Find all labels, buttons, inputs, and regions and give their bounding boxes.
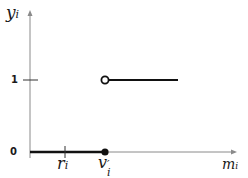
x-axis-arrow-icon bbox=[231, 150, 237, 155]
y-axis-label: yi bbox=[6, 2, 19, 22]
y-tick-label-zero: 0 bbox=[10, 146, 17, 157]
y-axis-arrow-icon bbox=[28, 10, 33, 16]
plot-area bbox=[0, 0, 248, 178]
r-label: ri bbox=[57, 154, 68, 173]
y-tick-label-one: 1 bbox=[11, 74, 18, 85]
step-function-diagram: yi 1 0 ri v′i mi bbox=[0, 0, 248, 178]
x-axis-label: mi bbox=[222, 156, 238, 172]
v-prime-label: v′i bbox=[98, 153, 113, 172]
open-endpoint-circle bbox=[101, 76, 108, 83]
